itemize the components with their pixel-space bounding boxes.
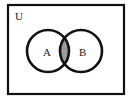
venn-diagram: U A B [0,0,132,100]
set-a-label: A [43,46,51,58]
universe-label: U [15,10,23,22]
set-b-label: B [79,46,86,58]
